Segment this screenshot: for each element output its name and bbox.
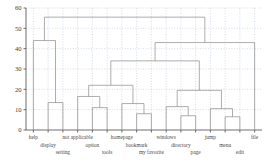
dendrogram-link xyxy=(44,17,204,42)
dendrogram-link xyxy=(122,104,144,130)
dendrogram-figure: 0102030405060 helpdisplaysettingnot appl… xyxy=(0,0,267,162)
leaf-label: help xyxy=(29,134,39,140)
leaf-label: homepage xyxy=(111,134,134,140)
dendrogram-link xyxy=(33,41,55,130)
y-tick-labels: 0102030405060 xyxy=(15,4,22,133)
dendrogram-link xyxy=(78,96,100,130)
leaf-label: display xyxy=(40,142,56,148)
y-tick-label: 40 xyxy=(15,45,22,52)
leaf-label: page xyxy=(191,149,202,155)
y-tick-label: 20 xyxy=(15,86,22,93)
leaf-label: windows xyxy=(156,134,175,140)
leaf-label: tools xyxy=(102,149,112,155)
y-tick-label: 60 xyxy=(15,4,22,11)
leaf-label: my favorite xyxy=(139,149,165,155)
leaf-label: option xyxy=(85,142,99,148)
dendrogram-link xyxy=(48,103,63,130)
dendrogram-link xyxy=(89,85,133,103)
dendrogram-link xyxy=(111,61,200,90)
y-tick-label: 30 xyxy=(15,65,22,72)
dendrogram-link xyxy=(137,114,152,130)
dendrogram-plot: 0102030405060 helpdisplaysettingnot appl… xyxy=(0,0,267,162)
dendrogram-link xyxy=(225,117,240,130)
leaf-label: setting xyxy=(56,149,71,155)
dendrogram-link xyxy=(181,116,196,130)
y-tick-label: 50 xyxy=(15,25,22,32)
leaf-label: edit xyxy=(236,149,245,155)
dendrogram-link xyxy=(92,108,107,130)
dendrogram-link xyxy=(166,107,188,130)
y-tick-label: 10 xyxy=(15,106,22,113)
leaf-label: menu xyxy=(219,142,231,148)
leaf-label: bookmark xyxy=(126,142,148,148)
dendrogram-links xyxy=(33,17,254,130)
leaf-label: file xyxy=(251,134,259,140)
dendrogram-link xyxy=(210,109,232,130)
dendrogram-link xyxy=(177,90,221,108)
leaf-labels: helpdisplaysettingnot applicableoptionto… xyxy=(29,134,259,155)
leaf-label: jump xyxy=(204,134,216,140)
leaf-label: not applicable xyxy=(62,134,93,140)
leaf-label: directory xyxy=(171,142,191,148)
y-tick-label: 0 xyxy=(18,126,22,133)
